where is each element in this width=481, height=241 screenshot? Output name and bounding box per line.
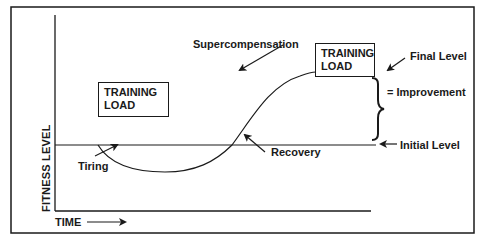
recovery-arrow-icon — [245, 135, 265, 152]
training-load-box-2-line1: TRAINING — [321, 47, 369, 60]
improvement-brace — [372, 78, 384, 140]
improvement-label: = Improvement — [387, 86, 466, 98]
diagram-canvas — [0, 0, 481, 241]
initial-level-label: Initial Level — [400, 139, 460, 151]
supercompensation-label: Supercompensation — [193, 38, 299, 50]
final-level-label: Final Level — [410, 50, 467, 62]
training-load-box-1-line1: TRAINING — [104, 86, 163, 99]
training-load-box-2-line2: LOAD — [321, 60, 369, 73]
y-axis-label: FITNESS LEVEL — [40, 124, 52, 212]
x-axis-label: TIME — [55, 216, 81, 228]
tiring-label: Tiring — [78, 160, 108, 172]
recovery-label: Recovery — [271, 146, 321, 158]
training-load-box-2: TRAINING LOAD — [315, 43, 375, 77]
training-load-box-1-line2: LOAD — [104, 99, 163, 112]
training-load-box-1: TRAINING LOAD — [98, 82, 169, 117]
final-level-arrow-icon — [388, 58, 405, 70]
